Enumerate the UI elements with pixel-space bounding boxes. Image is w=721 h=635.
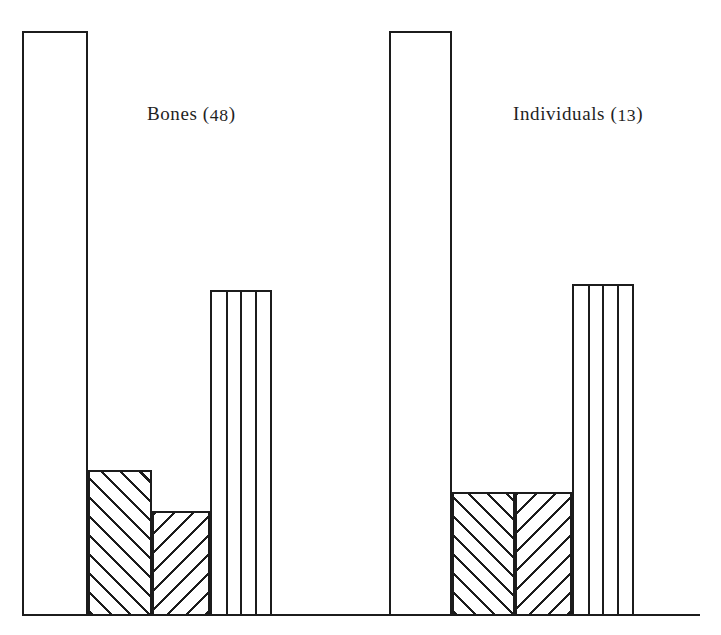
plot-area: Bones (48) Individuals (13) bbox=[0, 0, 721, 635]
stripe-rule bbox=[617, 286, 619, 614]
group-label-bones-count: 48 bbox=[210, 105, 229, 125]
group-label-individuals-count: 13 bbox=[617, 105, 636, 125]
bar-bones-category-4 bbox=[210, 290, 272, 616]
paren-open: ( bbox=[605, 103, 617, 124]
bar-individuals-category-3 bbox=[515, 492, 572, 616]
group-label-bones: Bones (48) bbox=[147, 103, 236, 125]
paren-close: ) bbox=[229, 103, 236, 124]
bar-bones-category-3 bbox=[152, 511, 210, 616]
stripe-rule bbox=[240, 292, 242, 614]
bar-individuals-category-1 bbox=[389, 31, 452, 616]
stripe-rule bbox=[588, 286, 590, 614]
paren-close: ) bbox=[636, 103, 643, 124]
bar-individuals-category-2 bbox=[452, 492, 515, 616]
stripe-rule bbox=[255, 292, 257, 614]
bar-bones-category-1 bbox=[22, 31, 88, 616]
bar-chart: Bones (48) Individuals (13) bbox=[0, 0, 721, 635]
stripe-rule bbox=[226, 292, 228, 614]
group-label-bones-text: Bones bbox=[147, 103, 198, 124]
bar-bones-category-2 bbox=[88, 470, 152, 616]
stripe-rule bbox=[602, 286, 604, 614]
group-label-individuals-text: Individuals bbox=[513, 103, 605, 124]
x-axis-baseline bbox=[22, 614, 700, 616]
bar-individuals-category-4 bbox=[572, 284, 634, 616]
paren-open: ( bbox=[198, 103, 210, 124]
group-label-individuals: Individuals (13) bbox=[513, 103, 643, 125]
